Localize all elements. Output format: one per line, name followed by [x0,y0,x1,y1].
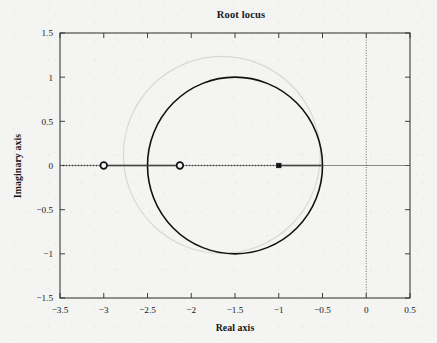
zero-marker [177,162,184,169]
x-tick-label: −3 [99,305,109,315]
figure-background [0,0,437,343]
y-tick-label: 0.5 [42,117,54,127]
y-tick-label: −0.5 [36,205,53,215]
x-tick-label: −2.5 [139,305,156,315]
y-tick-label: −1.5 [36,293,53,303]
x-tick-label: −1.5 [227,305,244,315]
x-tick-label: −3.5 [52,305,69,315]
y-tick-label: 0 [48,161,53,171]
root-locus-plot: −3.5−3−2.5−2−1.5−1−0.500.5 −1.5−1−0.500.… [0,0,437,343]
x-axis-label: Real axis [216,322,255,333]
chart-title: Root locus [217,9,265,20]
x-tick-label: −0.5 [314,305,331,315]
x-tick-label: 0.5 [404,305,416,315]
y-tick-label: −1 [43,249,53,259]
root-locus-figure: −3.5−3−2.5−2−1.5−1−0.500.5 −1.5−1−0.500.… [0,0,437,343]
y-tick-label: 1.5 [42,28,54,38]
x-tick-label: 0 [364,305,369,315]
zero-marker [100,162,107,169]
x-tick-label: −2 [186,305,196,315]
x-tick-label: −1 [274,305,284,315]
breakaway-marker [276,163,281,168]
y-axis-label: Imaginary axis [12,134,23,198]
y-tick-label: 1 [48,73,53,83]
